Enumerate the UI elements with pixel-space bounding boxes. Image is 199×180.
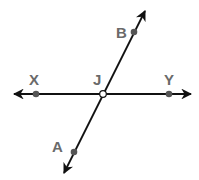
label-y: Y [164,71,174,88]
label-a: A [52,138,63,155]
intersecting-lines-diagram: B X J Y A [0,0,199,180]
point-x [33,91,40,98]
point-b [131,29,138,36]
point-a [71,149,78,156]
label-x: X [29,71,39,88]
label-j: J [93,71,101,88]
point-j [100,91,107,98]
point-y [166,91,173,98]
label-b: B [116,24,127,41]
